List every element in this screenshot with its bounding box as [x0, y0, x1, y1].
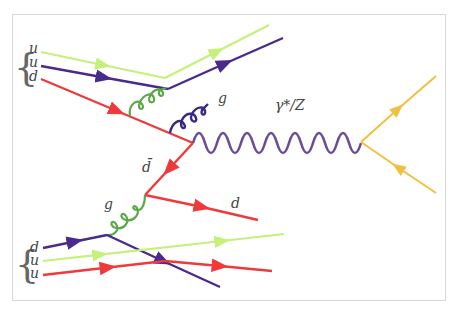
antiquark-label: d̄	[142, 158, 153, 175]
gluon-label-top: g	[218, 90, 227, 106]
bottom-proton-label-3: u	[30, 265, 39, 281]
outgoing-d-quark	[145, 195, 258, 220]
feynman-diagram-svg: { u u d g γ*/Z d̄ d g	[0, 0, 456, 311]
top-u-quark-green	[41, 25, 269, 78]
boson-propagator	[193, 133, 361, 153]
bottom-proton: { d u u	[15, 234, 284, 287]
bottom-d-quark-purple	[43, 235, 220, 287]
top-proton-label-3: d	[29, 68, 38, 84]
gluon-label-bottom: g	[104, 196, 113, 212]
bottom-u-quark-green	[43, 234, 284, 261]
top-u-quark-purple	[41, 38, 283, 89]
bottom-u-quark-red	[43, 261, 272, 275]
feynman-diagram-canvas: { u u d g γ*/Z d̄ d g	[0, 0, 456, 311]
top-proton: { u u d	[14, 25, 283, 143]
top-gluon-green	[130, 88, 166, 116]
antiquark-dbar	[145, 143, 193, 195]
boson-label: γ*/Z	[275, 97, 305, 113]
top-gluon-purple	[170, 104, 208, 133]
outgoing-d-label: d	[231, 195, 240, 211]
lepton-pair	[361, 76, 436, 193]
